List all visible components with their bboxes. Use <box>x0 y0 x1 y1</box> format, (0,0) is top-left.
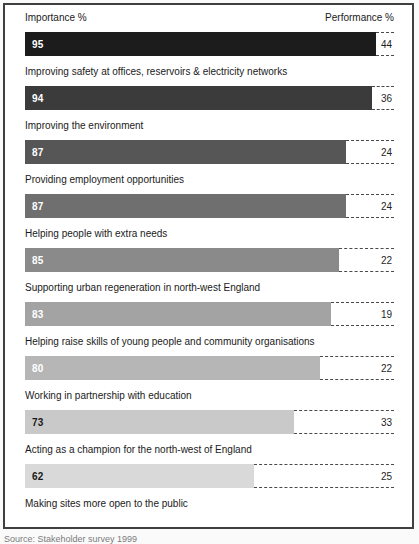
importance-value: 73 <box>32 417 44 428</box>
bar-label: Improving safety at offices, reservoirs … <box>25 65 394 78</box>
importance-value: 94 <box>32 93 44 104</box>
remainder-dashed-box: 33 <box>294 410 394 434</box>
bar-label: Providing employment opportunities <box>25 173 394 186</box>
bar-label: Helping people with extra needs <box>25 227 394 240</box>
performance-value: 22 <box>381 255 392 266</box>
bar-label: Making sites more open to the public <box>25 497 394 510</box>
bar-row: 85 22 <box>25 248 394 272</box>
remainder-dashed-box: 22 <box>320 356 394 380</box>
performance-value: 33 <box>381 417 392 428</box>
bar-group: 87 24 Helping people with extra needs <box>25 194 394 240</box>
bar-row: 87 24 <box>25 194 394 218</box>
bar-row: 80 22 <box>25 356 394 380</box>
remainder-dashed-box: 36 <box>372 86 394 110</box>
performance-value: 19 <box>381 309 392 320</box>
remainder-dashed-box: 22 <box>339 248 394 272</box>
performance-axis-label: Performance % <box>325 11 394 25</box>
importance-bar: 80 <box>25 356 320 380</box>
remainder-dashed-box: 24 <box>346 194 394 218</box>
importance-bar: 83 <box>25 302 331 326</box>
bar-group: 87 24 Providing employment opportunities <box>25 140 394 186</box>
importance-value: 80 <box>32 363 44 374</box>
bar-row: 83 19 <box>25 302 394 326</box>
bar-group: 94 36 Improving the environment <box>25 86 394 132</box>
bar-label: Working in partnership with education <box>25 389 394 402</box>
importance-bar: 94 <box>25 86 372 110</box>
remainder-dashed-box: 44 <box>376 32 394 56</box>
bar-label: Supporting urban regeneration in north-w… <box>25 281 394 294</box>
performance-value: 44 <box>381 39 392 50</box>
bar-group: 80 22 Working in partnership with educat… <box>25 356 394 402</box>
bar-row: 87 24 <box>25 140 394 164</box>
bar-group: 73 33 Acting as a champion for the north… <box>25 410 394 456</box>
remainder-dashed-box: 24 <box>346 140 394 164</box>
chart-header: Importance % Performance % <box>25 11 394 25</box>
remainder-dashed-box: 25 <box>254 464 394 488</box>
bar-label: Helping raise skills of young people and… <box>25 335 394 348</box>
bar-row: 95 44 <box>25 32 394 56</box>
importance-value: 85 <box>32 255 44 266</box>
importance-value: 62 <box>32 471 44 482</box>
source-caption: Source: Stakeholder survey 1999 <box>4 534 137 544</box>
importance-bar: 95 <box>25 32 376 56</box>
bar-groups: 95 44 Improving safety at offices, reser… <box>25 32 394 510</box>
importance-value: 83 <box>32 309 44 320</box>
bar-group: 62 25 Making sites more open to the publ… <box>25 464 394 510</box>
bar-label: Improving the environment <box>25 119 394 132</box>
importance-axis-label: Importance % <box>25 11 87 25</box>
bar-row: 94 36 <box>25 86 394 110</box>
chart-frame: Importance % Performance % 95 44 Improvi… <box>3 3 414 529</box>
importance-bar: 62 <box>25 464 254 488</box>
bar-row: 73 33 <box>25 410 394 434</box>
importance-bar: 87 <box>25 140 346 164</box>
importance-bar: 87 <box>25 194 346 218</box>
remainder-dashed-box: 19 <box>331 302 394 326</box>
bar-row: 62 25 <box>25 464 394 488</box>
performance-value: 25 <box>381 471 392 482</box>
performance-value: 22 <box>381 363 392 374</box>
importance-bar: 85 <box>25 248 339 272</box>
performance-value: 36 <box>381 93 392 104</box>
bar-group: 85 22 Supporting urban regeneration in n… <box>25 248 394 294</box>
importance-value: 87 <box>32 201 44 212</box>
performance-value: 24 <box>381 147 392 158</box>
performance-value: 24 <box>381 201 392 212</box>
importance-bar: 73 <box>25 410 294 434</box>
bar-label: Acting as a champion for the north-west … <box>25 443 394 456</box>
bar-group: 95 44 Improving safety at offices, reser… <box>25 32 394 78</box>
importance-value: 95 <box>32 39 44 50</box>
importance-value: 87 <box>32 147 44 158</box>
bar-group: 83 19 Helping raise skills of young peop… <box>25 302 394 348</box>
